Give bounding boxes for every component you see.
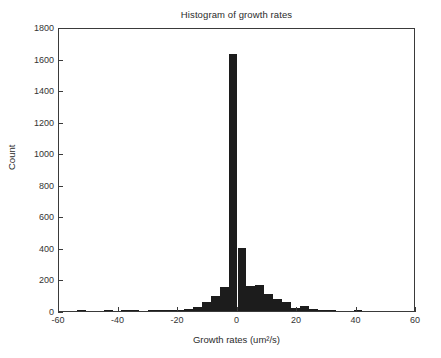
histogram-bar (104, 310, 113, 311)
plot-area (58, 28, 415, 312)
x-tick-mark (237, 307, 238, 312)
x-tick-label: -60 (51, 315, 64, 325)
histogram-bar (193, 307, 202, 311)
y-tick-mark (58, 217, 63, 218)
histogram-bar (220, 287, 229, 311)
histogram-bar (121, 310, 130, 311)
histogram-bar (273, 299, 282, 311)
x-tick-label: 20 (291, 315, 301, 325)
histogram-bar (246, 286, 255, 311)
y-tick-label: 800 (39, 181, 54, 191)
histogram-bars (59, 29, 414, 311)
y-tick-mark (58, 60, 63, 61)
x-tick-mark (58, 307, 59, 312)
y-tick-mark (58, 249, 63, 250)
y-tick-label: 1200 (34, 118, 54, 128)
y-tick-mark (58, 154, 63, 155)
chart-title: Histogram of growth rates (58, 9, 415, 20)
y-tick-label: 200 (39, 275, 54, 285)
y-tick-mark (58, 28, 63, 29)
y-tick-label: 1800 (34, 23, 54, 33)
histogram-bar (202, 302, 211, 311)
x-tick-label: 40 (350, 315, 360, 325)
x-tick-mark (415, 307, 416, 312)
histogram-bar (318, 310, 327, 311)
histogram-figure: Histogram of growth rates 02004006008001… (0, 0, 441, 358)
x-tick-mark (118, 307, 119, 312)
y-tick-label: 600 (39, 212, 54, 222)
y-tick-label: 1000 (34, 149, 54, 159)
y-tick-mark (58, 280, 63, 281)
y-tick-label: 400 (39, 244, 54, 254)
histogram-bar (130, 310, 139, 311)
y-axis-label: Count (6, 145, 17, 170)
y-tick-mark (58, 186, 63, 187)
x-tick-label: -40 (111, 315, 124, 325)
histogram-bar (238, 248, 247, 311)
histogram-bar (148, 310, 157, 311)
y-tick-label: 1600 (34, 55, 54, 65)
x-tick-label: -20 (170, 315, 183, 325)
histogram-bar (184, 309, 193, 311)
x-tick-mark (356, 307, 357, 312)
y-tick-label: 1400 (34, 86, 54, 96)
histogram-bar (309, 309, 318, 311)
histogram-bar (229, 54, 238, 311)
x-tick-mark (177, 307, 178, 312)
x-tick-mark (296, 307, 297, 312)
y-tick-mark (58, 123, 63, 124)
histogram-bar (264, 294, 273, 311)
y-tick-mark (58, 312, 63, 313)
x-tick-label: 60 (410, 315, 420, 325)
histogram-bar (166, 310, 175, 311)
x-axis-label: Growth rates (um²/s) (58, 334, 415, 345)
y-tick-mark (58, 91, 63, 92)
x-tick-label: 0 (234, 315, 239, 325)
histogram-bar (157, 310, 166, 311)
histogram-bar (77, 310, 86, 311)
histogram-bar (255, 285, 264, 311)
histogram-bar (300, 306, 309, 311)
histogram-bar (327, 310, 336, 311)
histogram-bar (282, 302, 291, 311)
histogram-bar (211, 296, 220, 311)
